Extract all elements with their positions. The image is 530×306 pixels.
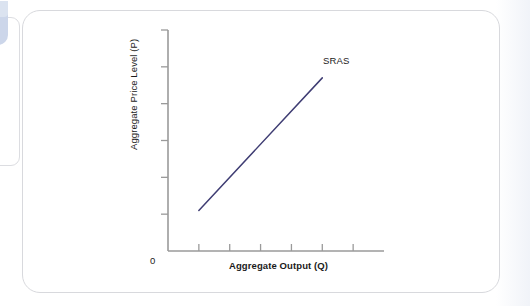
scan-gradient-overlay [496, 0, 530, 306]
adjacent-card-color-swatch [0, 1, 8, 45]
x-axis-label: Aggregate Output (Q) [229, 260, 328, 271]
series-label-sras: SRAS [323, 55, 350, 66]
origin-label: 0 [150, 255, 155, 266]
y-axis-label: Aggregate Price Level (P) [128, 39, 139, 150]
figure-card [22, 10, 500, 293]
page-background: Aggregate Price Level (P) Aggregate Outp… [0, 0, 530, 306]
